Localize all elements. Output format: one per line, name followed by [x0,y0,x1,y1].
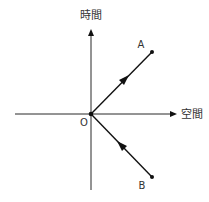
time-axis [88,29,94,190]
space-axis-arrow-icon [170,111,177,117]
point-a-label: A [138,39,145,50]
worldline-bo [91,114,154,179]
origin-dot [89,112,94,117]
worldline-oa [91,50,154,114]
space-axis-label: 空間 [181,107,203,121]
point-b-label: B [139,180,146,191]
time-axis-label: 時間 [80,9,102,22]
time-axis-arrow-icon [88,29,94,36]
origin-label: O [80,117,88,128]
point-a-dot [150,50,154,54]
point-b-dot [150,175,154,179]
space-axis [15,111,177,117]
spacetime-diagram: 時間 空間 O A B [0,0,209,202]
